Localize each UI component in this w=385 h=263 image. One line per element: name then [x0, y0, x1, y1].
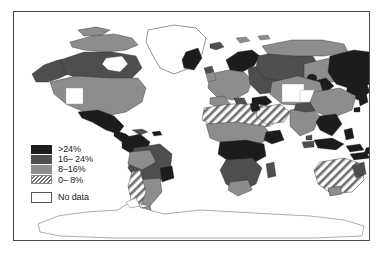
legend-label-over-24: >24% — [58, 144, 81, 154]
region-africa — [206, 122, 284, 196]
legend-row: 16– 24% — [31, 154, 131, 164]
legend-row: 0– 8% — [31, 175, 131, 185]
legend-row: >24% — [31, 144, 131, 154]
legend-swatch-over-24 — [31, 145, 52, 154]
legend-label-0-8: 0– 8% — [58, 175, 83, 185]
map-legend: >24% 16– 24% 8–16% 0– 8% No data — [31, 144, 131, 203]
legend-swatch-16-24 — [31, 155, 52, 164]
region-australia — [314, 158, 366, 196]
region-greenland — [146, 25, 214, 74]
legend-label-16-24: 16– 24% — [58, 154, 93, 164]
map-figure: >24% 16– 24% 8–16% 0– 8% No data — [13, 11, 370, 241]
legend-swatch-8-16 — [31, 165, 52, 174]
world-map — [14, 12, 369, 240]
legend-swatch-no-data — [31, 192, 52, 203]
legend-label-no-data: No data — [58, 192, 89, 202]
region-north-america — [32, 27, 162, 148]
legend-label-8-16: 8–16% — [58, 164, 86, 174]
region-antarctica — [38, 198, 364, 238]
legend-swatch-0-8 — [31, 175, 52, 184]
region-north-atlantic — [210, 35, 270, 50]
legend-row: No data — [31, 192, 131, 203]
legend-row: 8–16% — [31, 164, 131, 174]
